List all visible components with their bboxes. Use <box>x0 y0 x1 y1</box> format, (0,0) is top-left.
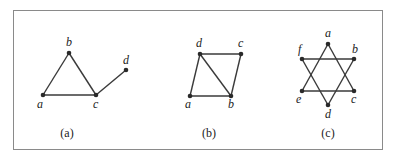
vertex-d <box>124 68 129 73</box>
vertex-label: c <box>238 36 244 50</box>
vertex-label: a <box>37 97 43 111</box>
vertex-a <box>326 42 331 47</box>
vertex-label: f <box>298 42 303 56</box>
vertex-label: c <box>93 97 99 111</box>
vertex-c <box>239 52 244 57</box>
vertex-label: b <box>66 35 72 49</box>
vertex-label: b <box>228 97 234 111</box>
edge-a-e <box>302 44 328 91</box>
edge-a-b <box>43 53 69 95</box>
edge-d-f <box>302 59 328 105</box>
edge-c-d <box>96 70 126 95</box>
vertex-label: c <box>351 92 357 106</box>
vertex-f <box>300 57 305 62</box>
edge-a-d <box>190 54 200 96</box>
vertex-label: e <box>296 92 302 106</box>
graph-caption: (a) <box>60 126 73 140</box>
edge-d-b <box>200 54 231 96</box>
edge-c-a <box>328 44 354 91</box>
vertex-label: a <box>325 26 331 40</box>
graph-figure: abcd(a)abcd(b)abcdef(c) <box>0 0 395 160</box>
vertex-b <box>67 51 72 56</box>
graph-b: abcd(b) <box>185 36 244 140</box>
graph-caption: (b) <box>202 126 216 140</box>
vertex-b <box>352 57 357 62</box>
edge-b-c <box>69 53 96 95</box>
graph-a: abcd(a) <box>37 35 130 140</box>
graph-caption: (c) <box>321 126 334 140</box>
vertex-label: b <box>352 42 358 56</box>
vertex-label: a <box>185 97 191 111</box>
vertex-label: d <box>123 53 130 67</box>
vertex-label: d <box>196 36 203 50</box>
vertex-d <box>198 52 203 57</box>
vertex-label: d <box>325 107 332 121</box>
graph-c: abcdef(c) <box>296 26 358 140</box>
edge-c-b <box>231 54 241 96</box>
